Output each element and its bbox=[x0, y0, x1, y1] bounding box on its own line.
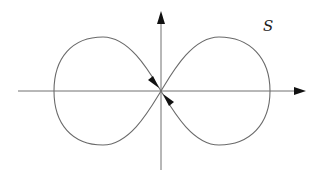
curve-direction-arrow-icon bbox=[148, 76, 159, 88]
figure-eight-diagram: S bbox=[0, 0, 323, 177]
x-axis-arrow-icon bbox=[294, 87, 306, 95]
curve-label: S bbox=[263, 17, 273, 35]
curve-direction-arrow-icon bbox=[163, 94, 174, 106]
y-axis-arrow-icon bbox=[157, 11, 165, 24]
